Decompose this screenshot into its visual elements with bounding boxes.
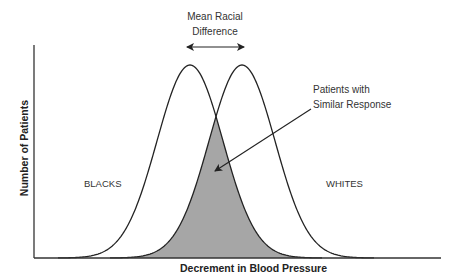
mean-difference-line1: Mean Racial	[183, 11, 247, 23]
whites-label: WHITES	[326, 178, 363, 190]
similar-response-line2: Similar Response	[313, 99, 391, 111]
chart-container: Mean Racial Difference Patients with Sim…	[0, 0, 455, 276]
similar-response-label: Patients with Similar Response	[313, 84, 391, 111]
mean-difference-line2: Difference	[183, 26, 247, 38]
blacks-label: BLACKS	[84, 178, 122, 190]
chart-canvas	[0, 0, 455, 276]
x-axis-title: Decrement in Blood Pressure	[180, 262, 327, 274]
similar-response-line1: Patients with	[313, 84, 391, 96]
overlap-shaded-region	[110, 117, 322, 259]
y-axis-title: Number of Patients	[18, 98, 30, 198]
mean-difference-label: Mean Racial Difference	[183, 11, 247, 38]
similar-response-pointer-arrow	[215, 109, 311, 171]
